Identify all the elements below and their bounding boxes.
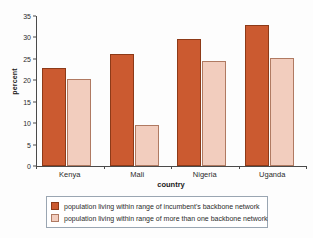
x-tick-mark (239, 166, 240, 169)
bar-group (36, 16, 104, 166)
y-tick-label: 20 (23, 77, 36, 84)
y-tick-label: 35 (23, 13, 36, 20)
legend-swatch-series-0 (51, 202, 59, 210)
legend-item[interactable]: population living within range of incumb… (51, 200, 263, 212)
bar[interactable] (110, 54, 134, 166)
y-tick-label: 0 (27, 163, 36, 170)
legend-item[interactable]: population living within range of more t… (51, 212, 263, 224)
bar[interactable] (245, 25, 269, 166)
legend-label-series-0: population living within range of incumb… (64, 203, 260, 210)
bar[interactable] (270, 58, 294, 166)
x-tick-mark (36, 166, 37, 169)
x-axis-label: country (36, 180, 306, 189)
bar-group (171, 16, 239, 166)
bar-chart: percent 05101520253035 KenyaMaliNigeriaU… (0, 0, 313, 238)
y-axis-label: percent (11, 52, 18, 112)
y-tick-label: 30 (23, 34, 36, 41)
x-tick-mark (306, 166, 307, 169)
bar[interactable] (67, 79, 91, 166)
bar-group (239, 16, 307, 166)
x-tick-mark (104, 166, 105, 169)
bar[interactable] (42, 68, 66, 166)
bar[interactable] (202, 61, 226, 166)
y-tick-label: 5 (27, 141, 36, 148)
x-tick-label: Mali (102, 170, 172, 179)
x-tick-mark (171, 166, 172, 169)
y-tick-label: 25 (23, 55, 36, 62)
plot-area: 05101520253035 KenyaMaliNigeriaUganda (36, 16, 306, 166)
y-tick-label: 10 (23, 120, 36, 127)
legend-swatch-series-1 (51, 214, 59, 222)
bar-group (104, 16, 172, 166)
x-tick-label: Nigeria (170, 170, 240, 179)
x-tick-label: Kenya (35, 170, 105, 179)
legend-label-series-1: population living within range of more t… (64, 215, 268, 222)
bar[interactable] (135, 125, 159, 166)
x-tick-label: Uganda (237, 170, 307, 179)
legend: population living within range of incumb… (46, 196, 268, 228)
bar[interactable] (177, 39, 201, 166)
y-tick-label: 15 (23, 98, 36, 105)
